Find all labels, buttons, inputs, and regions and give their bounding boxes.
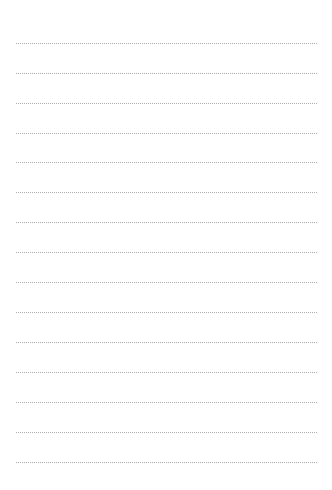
ruled-line — [16, 432, 318, 433]
ruled-line — [16, 462, 318, 463]
ruled-line — [16, 133, 318, 134]
ruled-line — [16, 73, 318, 74]
ruled-line — [16, 43, 318, 44]
ruled-line — [16, 282, 318, 283]
ruled-line — [16, 103, 318, 104]
ruled-line — [16, 192, 318, 193]
ruled-line — [16, 372, 318, 373]
ruled-line — [16, 162, 318, 163]
ruled-line — [16, 222, 318, 223]
ruled-line — [16, 252, 318, 253]
ruled-line — [16, 402, 318, 403]
lined-paper-page — [0, 0, 332, 490]
ruled-line — [16, 312, 318, 313]
ruled-line — [16, 342, 318, 343]
